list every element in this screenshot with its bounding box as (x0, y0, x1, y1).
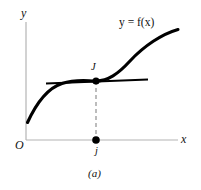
curve-equation-label: y = f(x) (119, 17, 154, 29)
origin-label: O (15, 139, 24, 151)
inflection-point-label: J (91, 62, 96, 73)
figure-caption: (a) (88, 168, 101, 179)
x-axis-label: x (181, 133, 186, 145)
figure-inflection-point: y x O y = f(x) J j (a) (0, 0, 201, 190)
function-curve (28, 30, 179, 123)
diagram-canvas (0, 0, 201, 190)
x-axis-point-dot (92, 136, 100, 144)
x-axis-point-label: j (95, 146, 98, 157)
y-axis-label: y (21, 7, 26, 19)
inflection-point-dot (92, 77, 99, 84)
